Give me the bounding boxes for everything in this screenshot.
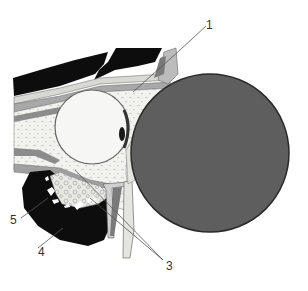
anatomy-diagram [0,0,308,291]
label-4: 4 [38,246,45,258]
large-mass [131,74,289,232]
eyeball [55,90,129,164]
label-5: 5 [10,214,17,226]
label-1: 1 [206,19,213,31]
label-3: 3 [166,260,173,272]
